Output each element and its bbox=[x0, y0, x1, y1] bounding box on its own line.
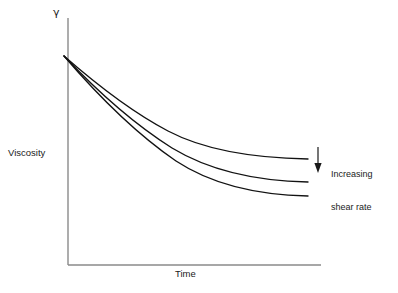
y-axis-title: Viscosity bbox=[8, 147, 45, 159]
axes-group bbox=[68, 18, 321, 265]
curve-low-shear-rate bbox=[64, 56, 308, 159]
chart-figure: γ Viscosity Time Increasing shear rate bbox=[0, 0, 398, 293]
annotation-line-2: shear rate bbox=[331, 202, 373, 213]
down-arrow-icon bbox=[314, 147, 321, 173]
curve-medium-shear-rate bbox=[64, 56, 308, 182]
data-curves-group bbox=[64, 56, 308, 196]
y-axis-symbol: γ bbox=[53, 6, 60, 20]
annotation-increasing-shear-rate: Increasing shear rate bbox=[331, 146, 373, 236]
x-axis-title: Time bbox=[175, 268, 196, 280]
curve-high-shear-rate bbox=[64, 56, 308, 196]
annotation-line-1: Increasing bbox=[331, 169, 373, 180]
